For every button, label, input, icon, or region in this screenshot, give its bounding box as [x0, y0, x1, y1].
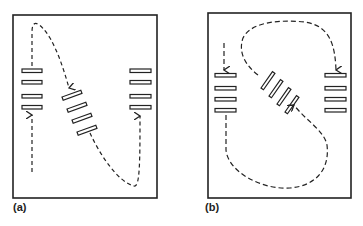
panel-b: (b) — [0, 0, 363, 226]
left-bar-stack-b — [215, 74, 236, 113]
panel-label-b: (b) — [205, 201, 219, 213]
diagram-b — [0, 0, 363, 226]
right-bar-stack-b — [325, 74, 346, 113]
middle-bar-stack-b — [261, 72, 299, 114]
